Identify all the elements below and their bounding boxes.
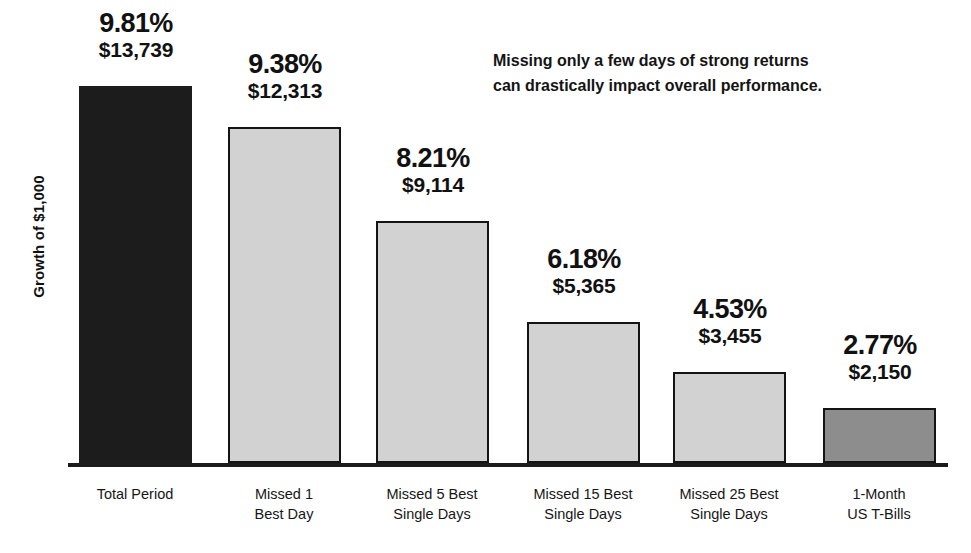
x-label-line-2: US T-Bills [804,504,954,524]
value-label-missed-1-best-day: 9.38% $12,313 [190,49,380,103]
bar-one-month-us-t-bills [823,408,936,463]
value-amount: $9,114 [338,173,528,197]
x-axis-line [68,463,948,467]
bar-missed-5-best-single-days [376,221,489,463]
x-label-line-1: Total Period [60,484,210,504]
x-label-line-1: Missed 1 [209,484,359,504]
bar-missed-1-best-day [228,127,341,463]
value-label-one-month-us-t-bills: 2.77% $2,150 [785,330,971,384]
annotation-line-2: can drastically impact overall performan… [493,73,913,98]
bar-missed-25-best-single-days [673,372,786,463]
x-label-missed-15-best-single-days: Missed 15 Best Single Days [508,484,658,524]
x-label-missed-5-best-single-days: Missed 5 Best Single Days [357,484,507,524]
x-label-line-1: 1-Month [804,484,954,504]
x-label-missed-25-best-single-days: Missed 25 Best Single Days [654,484,804,524]
value-amount: $12,313 [190,79,380,103]
x-label-line-2: Single Days [508,504,658,524]
x-label-line-1: Missed 25 Best [654,484,804,504]
value-percent: 9.81% [41,8,231,38]
annotation-line-1: Missing only a few days of strong return… [493,48,913,73]
chart-annotation: Missing only a few days of strong return… [493,48,913,98]
bar-chart: Growth of $1,000 Missing only a few days… [0,0,971,553]
x-label-line-2: Single Days [654,504,804,524]
value-percent: 4.53% [635,294,825,324]
value-amount: $2,150 [785,360,971,384]
x-label-one-month-us-t-bills: 1-Month US T-Bills [804,484,954,524]
value-percent: 6.18% [489,244,679,274]
x-label-line-2: Single Days [357,504,507,524]
value-percent: 9.38% [190,49,380,79]
x-label-total-period: Total Period [60,484,210,504]
value-label-missed-5-best-single-days: 8.21% $9,114 [338,143,528,197]
y-axis-title: Growth of $1,000 [30,137,47,337]
value-percent: 8.21% [338,143,528,173]
bar-total-period [79,86,192,463]
value-percent: 2.77% [785,330,971,360]
x-label-line-1: Missed 15 Best [508,484,658,504]
x-label-line-2: Best Day [209,504,359,524]
x-label-missed-1-best-day: Missed 1 Best Day [209,484,359,524]
bar-missed-15-best-single-days [527,322,640,463]
value-label-missed-15-best-single-days: 6.18% $5,365 [489,244,679,298]
x-label-line-1: Missed 5 Best [357,484,507,504]
